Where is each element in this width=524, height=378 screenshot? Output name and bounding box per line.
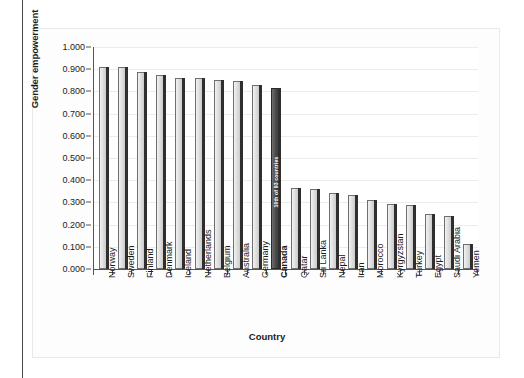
bar-right-edge <box>355 195 358 269</box>
x-tick-label: Netherlands <box>203 229 213 278</box>
bar-right-edge <box>278 88 281 269</box>
y-tick-mark <box>86 269 91 270</box>
bar <box>137 72 147 269</box>
page-left-rule <box>22 0 23 378</box>
y-tick-label: 0.100 <box>62 242 85 252</box>
x-tick-label: Morocco <box>375 243 385 278</box>
y-tick-label: 1.000 <box>62 42 85 52</box>
chart-plot-wrapper: Gender empowerment 1.0000.9000.8000.7000… <box>33 29 501 359</box>
bar <box>233 81 243 269</box>
bar-right-edge <box>106 67 109 269</box>
x-tick-label: Egypt <box>433 255 443 278</box>
y-tick-mark <box>86 135 91 136</box>
plot-area: 10th of 93 countries <box>93 47 478 270</box>
bar-right-edge <box>182 78 185 269</box>
y-tick-mark <box>86 47 91 48</box>
x-tick-label: Nepal <box>337 254 347 278</box>
bar <box>214 80 224 269</box>
y-tick-label: 0.000 <box>62 264 85 274</box>
chart-figure-card: Gender empowerment 1.0000.9000.8000.7000… <box>32 28 500 358</box>
y-tick-mark <box>86 202 91 203</box>
bar-right-edge <box>144 72 147 269</box>
bar <box>175 78 185 269</box>
x-tick-label: Saudi Arabia <box>452 227 462 278</box>
y-tick-mark <box>86 246 91 247</box>
y-tick-mark <box>86 69 91 70</box>
y-tick-label: 0.300 <box>62 197 85 207</box>
y-tick-label: 0.200 <box>62 220 85 230</box>
bar-right-edge <box>163 75 166 269</box>
x-tick-label: Germany <box>260 241 270 278</box>
y-tick-label: 0.900 <box>62 64 85 74</box>
y-tick-mark <box>86 224 91 225</box>
y-tick-mark <box>86 91 91 92</box>
x-tick-label: Australia <box>241 243 251 278</box>
y-tick-label: 0.400 <box>62 175 85 185</box>
x-tick-label: Sweden <box>126 245 136 278</box>
bar-right-edge <box>221 80 224 269</box>
x-tick-label: Belgium <box>222 245 232 278</box>
x-tick-label: Iran <box>356 262 366 278</box>
bar <box>118 67 128 269</box>
y-tick-mark <box>86 180 91 181</box>
x-tick-label: Iceland <box>183 249 193 278</box>
x-tick-label: Kyrgyzstan <box>395 233 405 278</box>
y-tick-mark <box>86 113 91 114</box>
x-tick-label: Sri Lanka <box>318 240 328 278</box>
x-tick-label: Norway <box>107 247 117 278</box>
x-tick-mark <box>93 270 94 275</box>
y-tick-label: 0.500 <box>62 153 85 163</box>
y-tick-label: 0.600 <box>62 131 85 141</box>
y-tick-label: 0.800 <box>62 86 85 96</box>
x-tick-label: Turkey <box>414 251 424 278</box>
x-tick-label: Finland <box>145 248 155 278</box>
y-axis-tick-labels: 1.0000.9000.8000.7000.6000.5000.4000.300… <box>47 29 91 359</box>
bar <box>348 195 358 269</box>
y-tick-label: 0.700 <box>62 109 85 119</box>
x-tick-label: Canada <box>279 245 289 278</box>
bar-right-edge <box>240 81 243 269</box>
bar <box>99 67 109 269</box>
bar: 10th of 93 countries <box>271 88 281 269</box>
bar-right-edge <box>125 67 128 269</box>
x-axis-title: Country <box>33 331 501 342</box>
x-tick-label: Qatar <box>299 255 309 278</box>
x-tick-label: Denmark <box>164 241 174 278</box>
x-tick-label: Yemen <box>471 250 481 278</box>
y-axis-title: Gender empowerment <box>29 0 40 129</box>
bar-series: 10th of 93 countries <box>94 47 478 269</box>
bar <box>156 75 166 269</box>
y-tick-mark <box>86 158 91 159</box>
